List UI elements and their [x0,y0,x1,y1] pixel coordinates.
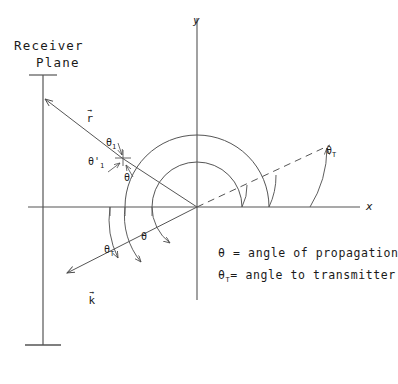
theta-T-lower-subscript: T [110,250,114,258]
legend-row-transmitter: θT= angle to transmitter [218,268,396,286]
theta-lower-label: θ [141,230,147,244]
theta-T-arc-right [310,148,327,207]
theta1-subscript: 1 [112,143,116,151]
r-vector-accent-icon: → [87,107,94,115]
legend-text-transmitter: = angle to transmitter [230,268,396,282]
k-vector-label: →k [62,279,95,324]
theta-T-arc-lower [124,207,141,262]
receiver-plane-label-line2: Plane [36,55,80,72]
k-vector-accent-icon: → [89,289,96,297]
theta1-label: θ1 [106,136,116,152]
theta1-prime-pointer [108,163,120,172]
legend-symbol-theta: θ [218,246,226,260]
x-axis-label: x [366,200,373,215]
legend-row-propagation: θ = angle of propagation [218,246,398,264]
legend-symbol-theta-T: θ [218,268,226,282]
wave-propagation-geometry-figure: Receiver Plane y x →r →k θ1 θ'1 θ θT θT … [0,0,398,384]
arc-guide-right-outer [242,185,247,207]
r-vector-label: →r [60,97,93,142]
y-axis-label: y [193,14,200,29]
theta-T-right-label: θT [326,144,336,160]
receiver-plane-label-line1: Receiver [14,38,84,55]
theta-T-right-subscript: T [332,151,336,159]
theta1-prime-base: θ' [88,156,100,167]
theta1-prime-label: θ'1 [88,155,104,171]
transmitter-direction-dashed-line [197,145,330,207]
k-vector-arrow [67,207,197,273]
theta-crossing-label: θ [124,171,130,185]
theta1-prime-subscript: 1 [100,162,104,170]
legend-text-propagation: = angle of propagation [233,246,398,260]
arc-guide-right-inner [269,175,276,207]
theta1-pointer [118,143,122,155]
theta-T-lower-label: θT [104,243,114,259]
r-vector-tail [122,158,197,207]
